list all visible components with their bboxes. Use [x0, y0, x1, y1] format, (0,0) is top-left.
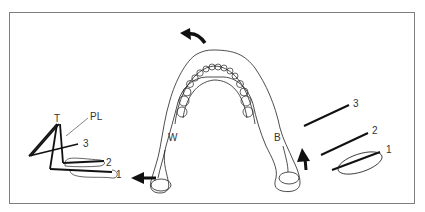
working-side-paths	[29, 124, 112, 172]
left-label-3: 3	[83, 138, 89, 149]
right-label-1: 1	[386, 144, 392, 155]
left-label-1: 1	[116, 169, 122, 180]
left-condyle	[151, 179, 171, 191]
right-label-2: 2	[372, 125, 378, 136]
label-pl: PL	[90, 111, 103, 122]
rotation-arrow-icon	[180, 28, 205, 43]
balancing-side-arrow-icon	[297, 148, 310, 170]
pl-leader-line	[66, 118, 88, 136]
mandible-diagram: W B 3 2 1 T PL 3 2 1	[0, 0, 425, 212]
label-t: T	[54, 113, 60, 124]
mandible-outline	[150, 50, 300, 193]
label-working-side: W	[168, 132, 178, 143]
buccal-arch	[175, 66, 255, 124]
teeth	[177, 64, 253, 117]
right-ramus-line	[283, 146, 288, 172]
lingual-arch	[183, 80, 247, 118]
balancing-side-paths	[304, 105, 380, 170]
right-label-3: 3	[353, 98, 359, 109]
right-condyle	[279, 172, 299, 184]
left-label-2: 2	[106, 157, 112, 168]
label-balancing-side: B	[274, 132, 281, 143]
